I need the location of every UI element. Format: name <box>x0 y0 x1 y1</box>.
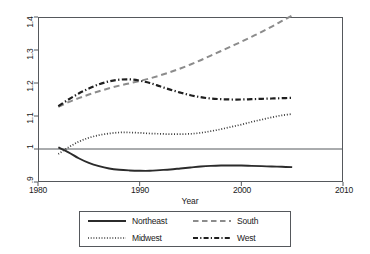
x-tick-2000: 2000 <box>222 185 262 195</box>
y-tick-0.9: .9 <box>0 172 30 182</box>
legend-item-west: West <box>185 233 290 243</box>
legend-item-midwest: Midwest <box>80 233 185 243</box>
y-tick-1.3: 1.3 <box>0 44 30 54</box>
legend-label-west: West <box>237 233 255 243</box>
x-axis-title: Year <box>170 196 210 206</box>
legend-item-south: South <box>185 216 290 226</box>
legend-label-midwest: Midwest <box>132 233 162 243</box>
solid-line-swatch <box>87 216 127 226</box>
x-tick-1990: 1990 <box>120 185 160 195</box>
y-tick-1.1: 1.1 <box>0 108 30 118</box>
legend-item-northeast: Northeast <box>80 216 185 226</box>
y-tick-1.4: 1.4 <box>0 12 30 22</box>
line-chart: 1.4 1.3 1.2 1.1 1 .9 1980 1990 2000 2010… <box>0 0 370 254</box>
plot-area <box>38 17 343 182</box>
chart-legend: Northeast South Midwest West <box>79 211 291 247</box>
legend-label-south: South <box>237 216 258 226</box>
legend-label-northeast: Northeast <box>132 216 167 226</box>
dotted-line-swatch <box>87 233 127 243</box>
dashdot-line-swatch <box>192 233 232 243</box>
x-tick-2010: 2010 <box>324 185 364 195</box>
y-tick-1.2: 1.2 <box>0 76 30 86</box>
dashed-line-swatch <box>192 216 232 226</box>
x-tick-1980: 1980 <box>18 185 58 195</box>
y-tick-1: 1 <box>0 140 30 150</box>
